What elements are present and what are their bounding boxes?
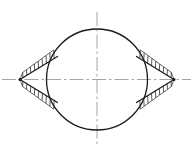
wedge-apex-point xyxy=(173,78,176,81)
technical-drawing-canvas xyxy=(0,0,193,150)
wedge-apex-point xyxy=(19,78,22,81)
centerlines-group xyxy=(2,12,191,147)
drawing-svg xyxy=(0,0,193,150)
